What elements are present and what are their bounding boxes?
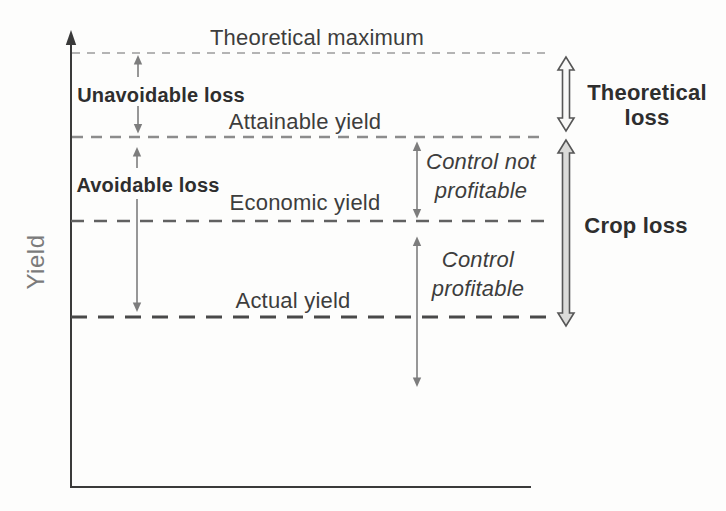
control-not-profitable-label: Control not profitable <box>401 148 561 205</box>
crop-yield-loss-diagram: Theoretical maximum Attainable yield Eco… <box>0 0 726 511</box>
y-axis-label: Yield <box>22 235 50 290</box>
avoidable-loss-label: Avoidable loss <box>76 174 219 197</box>
crop-loss-label: Crop loss <box>584 213 687 239</box>
unavoidable-loss-label: Unavoidable loss <box>77 84 245 107</box>
diagram-graphics <box>0 0 726 511</box>
y-axis-arrowhead-icon <box>66 30 76 45</box>
level-label-actual-yield: Actual yield <box>236 288 351 314</box>
level-label-attainable-yield: Attainable yield <box>229 109 381 135</box>
level-label-theoretical-maximum: Theoretical maximum <box>210 25 424 51</box>
level-label-economic-yield: Economic yield <box>230 190 381 216</box>
theoretical-loss-label: Theoretical loss <box>577 81 717 130</box>
avoidable-loss-arrows-icon <box>133 147 141 312</box>
control-profitable-label: Control profitable <box>418 246 538 303</box>
theoretical-loss-arrow-icon <box>558 57 574 131</box>
